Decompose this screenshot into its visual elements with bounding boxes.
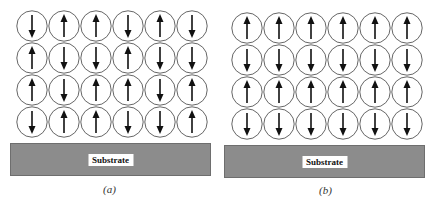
spin-cell [176,74,208,106]
spin-cell [263,12,295,44]
spin-cell [295,108,327,140]
spin-cell [391,108,423,140]
spin-cell [144,74,176,106]
spin-cell [112,106,144,138]
spin-cell [48,42,80,74]
spin-cell [144,42,176,74]
caption-a: (a) [103,183,116,195]
spin-cell [327,44,359,76]
spin-cell [112,10,144,42]
caption-b: (b) [319,184,332,196]
substrate-b: Substrate [224,145,425,178]
spin-cell [359,76,391,108]
spin-cell [231,108,263,140]
spin-cell [391,44,423,76]
spin-cell [112,74,144,106]
substrate-a: Substrate [10,143,211,176]
spin-cell [263,76,295,108]
spin-cell [263,44,295,76]
spin-cell [16,10,48,42]
spin-cell [80,10,112,42]
spin-cell [231,12,263,44]
spin-cell [176,106,208,138]
spin-cell [231,44,263,76]
spin-cell [359,44,391,76]
spin-cell [80,42,112,74]
spin-cell [295,44,327,76]
spin-grid-a [16,10,208,138]
spin-cell [144,106,176,138]
panel-b: Substrate (b) [217,0,435,203]
spin-cell [48,74,80,106]
spin-cell [359,12,391,44]
spin-cell [359,108,391,140]
spin-cell [327,108,359,140]
spin-cell [176,10,208,42]
spin-grid-b [231,12,423,140]
spin-cell [176,42,208,74]
substrate-label-b: Substrate [302,156,347,168]
spin-cell [144,10,176,42]
spin-cell [327,76,359,108]
spin-cell [295,12,327,44]
spin-cell [112,42,144,74]
spin-cell [16,74,48,106]
spin-cell [295,76,327,108]
spin-cell [80,106,112,138]
spin-cell [16,42,48,74]
spin-cell [391,76,423,108]
spin-cell [391,12,423,44]
spin-cell [48,106,80,138]
spin-cell [231,76,263,108]
spin-cell [80,74,112,106]
substrate-label-a: Substrate [88,154,133,166]
spin-cell [263,108,295,140]
spin-cell [48,10,80,42]
panel-a: Substrate (a) [0,0,217,203]
spin-cell [327,12,359,44]
spin-cell [16,106,48,138]
